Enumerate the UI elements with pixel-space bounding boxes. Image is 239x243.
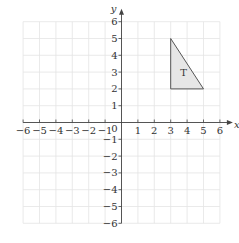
x-tick-label: 1 <box>135 125 141 136</box>
x-tick-label: 2 <box>151 125 157 136</box>
y-axis-label: y <box>110 3 117 14</box>
y-tick-label: 2 <box>111 83 117 94</box>
x-tick-label: 5 <box>200 125 206 136</box>
shape-label: T <box>180 67 187 78</box>
axes <box>23 9 233 224</box>
coordinate-grid: T −6−5−4−3−2−1123456654321−1−2−3−4−5−60x… <box>0 0 239 243</box>
y-tick-label: 3 <box>111 67 117 78</box>
y-axis-arrow-icon <box>119 9 124 15</box>
tick-labels: −6−5−4−3−2−1123456654321−1−2−3−4−5−60xy <box>16 3 239 229</box>
y-tick-label: 6 <box>111 16 117 27</box>
origin-label: 0 <box>111 123 117 134</box>
y-tick-label: −3 <box>103 167 118 178</box>
x-tick-label: 6 <box>217 125 223 136</box>
x-tick-label: −3 <box>65 125 80 136</box>
x-tick-label: 3 <box>168 125 174 136</box>
x-tick-label: −2 <box>81 125 96 136</box>
x-axis-arrow-icon <box>227 120 233 125</box>
y-tick-label: 5 <box>111 33 117 44</box>
x-tick-label: 4 <box>184 125 190 136</box>
y-tick-label: −6 <box>103 218 118 229</box>
x-tick-label: −4 <box>49 125 64 136</box>
y-tick-label: −4 <box>103 184 118 195</box>
x-tick-label: −5 <box>32 125 47 136</box>
y-tick-label: 1 <box>111 100 117 111</box>
x-axis-label: x <box>234 119 239 130</box>
x-tick-label: −6 <box>16 125 31 136</box>
y-tick-label: −5 <box>103 201 118 212</box>
y-tick-label: 4 <box>111 50 117 61</box>
y-tick-label: −2 <box>103 151 118 162</box>
y-tick-label: −1 <box>103 134 118 145</box>
